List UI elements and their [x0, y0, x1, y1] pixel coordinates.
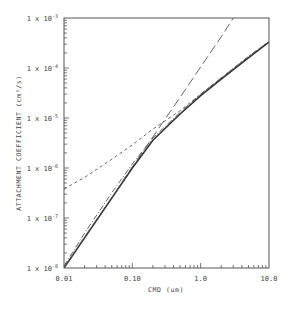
y-tick-label: 1 x 10-8	[27, 263, 58, 273]
y-tick-label: 1 x 10-3	[27, 13, 58, 23]
dash-dot-series-line	[64, 41, 269, 266]
x-tick-label: 1.0	[194, 275, 207, 283]
y-tick-label: 1 x 10-5	[27, 113, 58, 123]
y-tick-label: 1 x 10-4	[27, 63, 58, 73]
chart: 1 x 10-31 x 10-41 x 10-51 x 10-61 x 10-7…	[0, 0, 291, 309]
solid-series-line	[64, 42, 269, 268]
plot-frame	[64, 18, 269, 268]
y-axis-label: ATTACHMENT COEFFICIENT (cm³/s)	[15, 75, 23, 210]
x-tick-label: 0.01	[56, 275, 73, 283]
y-tick-label: 1 x 10-6	[27, 163, 58, 173]
y-tick-labels: 1 x 10-31 x 10-41 x 10-51 x 10-61 x 10-7…	[27, 13, 58, 273]
short-dash-series-line	[64, 41, 269, 189]
x-tick-labels: 0.010.101.010.0	[56, 275, 278, 283]
x-axis-label: CMD (um)	[148, 286, 184, 294]
x-tick-label: 0.10	[124, 275, 141, 283]
y-tick-label: 1 x 10-7	[27, 213, 58, 223]
x-tick-label: 10.0	[261, 275, 278, 283]
axis-ticks	[64, 20, 266, 268]
long-dash-series-line	[64, 18, 233, 268]
data-series	[64, 18, 269, 268]
